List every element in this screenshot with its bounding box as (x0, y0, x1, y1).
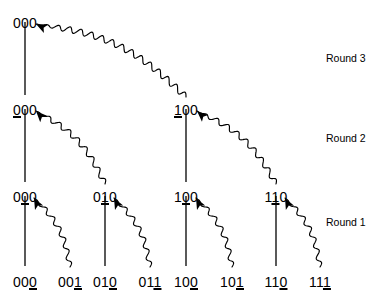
wavy-arrow-round1-d-path (285, 198, 322, 267)
node-label-participants-row-100-4: 100 (174, 275, 198, 289)
round-3-label: Round 3 (326, 53, 366, 64)
round-2-label: Round 2 (326, 133, 366, 144)
node-label-participants-row-110-6: 110 (265, 275, 288, 289)
node-prefix: 01 (139, 274, 154, 290)
node-underlined-bit: 1 (236, 274, 244, 290)
node-suffix: 000 (13, 15, 37, 31)
node-prefix: 11 (309, 274, 323, 290)
wavy-arrow-round2-right (197, 111, 276, 184)
node-label-participants-row-001-1: 001 (58, 275, 82, 289)
stems-group (25, 22, 276, 266)
round-1-label: Round 1 (326, 217, 366, 228)
node-underlined-bit: 1 (74, 274, 82, 290)
wavy-arrow-round2-left-path (36, 111, 106, 184)
wavy-arrow-round1-d (285, 198, 322, 267)
node-underlined-bit: 0 (13, 102, 21, 118)
node-prefix: 1 (174, 189, 182, 205)
node-label-round-1-winners-row-010-1: 010 (93, 190, 117, 204)
node-label-participants-row-101-5: 101 (220, 275, 244, 289)
node-label-round-2-winners-row-100-1: 100 (174, 103, 198, 117)
wavy-arrow-round3-path (36, 24, 186, 97)
node-suffix: 0 (279, 189, 287, 205)
node-underlined-bit: 1 (323, 274, 331, 290)
node-suffix: 00 (21, 102, 37, 118)
node-underlined-bit: 0 (190, 274, 198, 290)
wavy-arrow-round1-c (196, 198, 234, 267)
node-prefix: 0 (93, 189, 101, 205)
node-prefix: 00 (58, 274, 74, 290)
node-label-round-2-winners-row-000-0: 000 (13, 103, 37, 117)
node-underlined-bit: 0 (29, 274, 37, 290)
node-label-champion-row-000-0: 000 (13, 16, 37, 30)
bracket-lines-svg (0, 0, 369, 294)
node-underlined-bit: 1 (153, 274, 161, 290)
node-prefix: 10 (220, 274, 236, 290)
node-underlined-bit: 0 (182, 189, 190, 205)
wavy-arrow-round2-right-path (197, 111, 276, 184)
node-underlined-bit: 1 (174, 102, 182, 118)
wavy-arrow-round1-b-path (114, 198, 152, 267)
node-suffix: 0 (29, 189, 37, 205)
wavy-arrow-round2-left (36, 111, 106, 184)
wavy-arrow-round3 (36, 24, 186, 97)
node-label-participants-row-011-3: 011 (139, 275, 162, 289)
tournament-bracket-figure: 0000001000000101001100000010100111001011… (0, 0, 369, 294)
node-prefix: 0 (13, 189, 21, 205)
node-suffix: 0 (109, 189, 117, 205)
node-label-round-1-winners-row-100-2: 100 (174, 190, 198, 204)
wavy-arrow-round3-head-icon (36, 24, 48, 33)
wavy-arrows-group (34, 24, 322, 267)
node-label-round-1-winners-row-000-0: 000 (13, 190, 37, 204)
wavy-arrow-round1-c-path (196, 198, 234, 267)
node-underlined-bit: 1 (271, 189, 279, 205)
wavy-arrow-round2-right-head-icon (197, 111, 208, 122)
node-underlined-bit: 0 (21, 189, 29, 205)
wavy-arrow-round1-a (34, 198, 72, 267)
node-label-participants-row-000-0: 000 (13, 275, 37, 289)
node-prefix: 00 (13, 274, 29, 290)
wavy-arrow-round1-a-path (34, 198, 72, 267)
node-label-participants-row-111-7: 111 (309, 275, 331, 289)
node-suffix: 0 (190, 189, 198, 205)
node-label-round-1-winners-row-110-3: 110 (265, 190, 288, 204)
node-underlined-bit: 0 (279, 274, 287, 290)
node-underlined-bit: 1 (101, 189, 109, 205)
node-suffix: 00 (182, 102, 198, 118)
node-prefix: 10 (174, 274, 190, 290)
node-label-participants-row-010-2: 010 (93, 275, 117, 289)
node-prefix: 01 (93, 274, 109, 290)
wavy-arrow-round1-b (114, 198, 152, 267)
node-underlined-bit: 0 (109, 274, 117, 290)
node-prefix: 1 (265, 189, 272, 205)
node-prefix: 11 (265, 274, 280, 290)
